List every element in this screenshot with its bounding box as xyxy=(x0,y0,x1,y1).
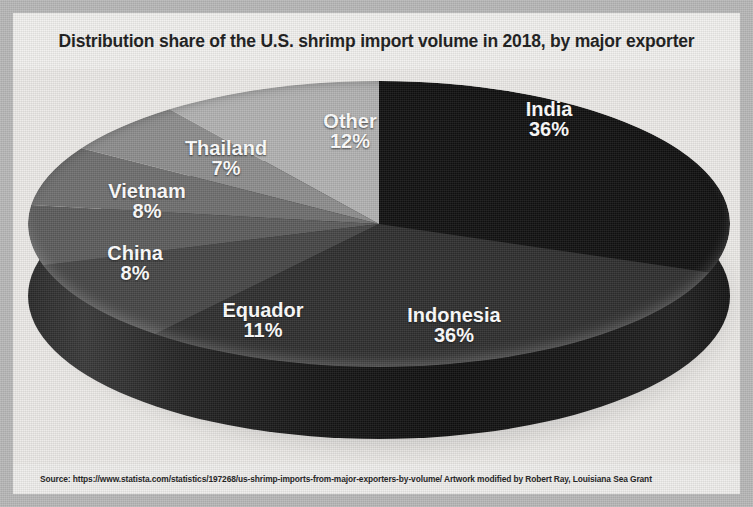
slice-label-equador: Equador 11% xyxy=(168,300,358,341)
slice-name-china: China xyxy=(60,243,210,263)
slice-label-indonesia: Indonesia 36% xyxy=(354,305,554,346)
slice-value-other: 12% xyxy=(270,131,430,151)
slice-value-indonesia: 36% xyxy=(354,325,554,345)
source-bar: Source: https://www.statista.com/statist… xyxy=(13,464,740,494)
slice-label-vietnam: Vietnam 8% xyxy=(62,181,232,222)
slice-name-other: Other xyxy=(270,111,430,131)
chart-panel: Distribution share of the U.S. shrimp im… xyxy=(13,13,740,494)
slice-label-china: China 8% xyxy=(60,243,210,284)
slice-name-india: India xyxy=(464,99,634,119)
slice-name-equador: Equador xyxy=(168,300,358,320)
chart-screenshot: Distribution share of the U.S. shrimp im… xyxy=(0,0,753,507)
slice-label-other: Other 12% xyxy=(270,111,430,152)
title-bar: Distribution share of the U.S. shrimp im… xyxy=(13,13,740,69)
slice-value-vietnam: 8% xyxy=(62,201,232,221)
source-caption: Source: https://www.statista.com/statist… xyxy=(13,474,652,484)
slice-value-thailand: 7% xyxy=(136,158,316,178)
slice-value-india: 36% xyxy=(464,119,634,139)
slice-name-vietnam: Vietnam xyxy=(62,181,232,201)
pie-chart-area: India 36% Indonesia 36% Equador 11% Chin… xyxy=(13,69,740,464)
slice-value-equador: 11% xyxy=(168,320,358,340)
slice-name-indonesia: Indonesia xyxy=(354,305,554,325)
slice-label-india: India 36% xyxy=(464,99,634,140)
chart-title: Distribution share of the U.S. shrimp im… xyxy=(59,31,695,52)
slice-value-china: 8% xyxy=(60,263,210,283)
pie-3d: India 36% Indonesia 36% Equador 11% Chin… xyxy=(28,69,730,463)
